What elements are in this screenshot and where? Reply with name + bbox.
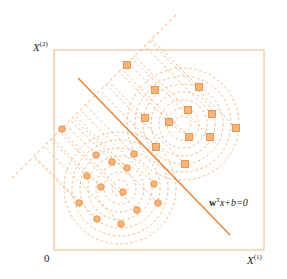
projection-line [152, 39, 199, 87]
circle-point [94, 216, 101, 223]
square-point [153, 144, 160, 151]
contour-ring [104, 172, 136, 204]
square-point [142, 115, 149, 122]
projection-line [135, 56, 188, 110]
circle-point [151, 181, 158, 188]
decision-boundary-line [78, 78, 230, 235]
circle-point [59, 126, 66, 133]
projection-line [73, 117, 158, 203]
square-point [182, 161, 189, 168]
circle-point [131, 151, 138, 158]
square-point [185, 107, 192, 114]
projection-line [51, 140, 87, 176]
projection-line [44, 146, 121, 224]
circle-point [134, 207, 141, 214]
circle-point [118, 221, 125, 228]
circle-point [98, 184, 105, 191]
square-point [186, 134, 193, 141]
x-axis-label-text: X [247, 254, 254, 266]
circle-point [84, 173, 91, 180]
square-point [209, 111, 216, 118]
circle-point [124, 165, 131, 172]
projection-line [66, 125, 96, 155]
y-axis-label: X(2) [33, 40, 48, 53]
contour-ring [135, 76, 231, 172]
square-point [124, 62, 131, 69]
circle-point [120, 189, 127, 196]
y-axis-label-text: X [33, 41, 40, 53]
contour-ring [143, 84, 223, 164]
x-axis-label-sup: (1) [254, 253, 262, 261]
square-point [196, 84, 203, 91]
square-point [207, 134, 214, 141]
projection-line [34, 156, 97, 219]
origin-label-text: 0 [44, 252, 50, 264]
circle-point [93, 152, 100, 159]
contour-ring [175, 116, 191, 132]
circle-point [109, 159, 116, 166]
y-axis-label-sup: (2) [40, 40, 48, 48]
projection-line [85, 105, 134, 154]
projection-line [122, 69, 189, 137]
circle-point [76, 200, 83, 207]
square-point [166, 119, 173, 126]
square-point [152, 87, 159, 94]
decision-boundary-equation: wTx+b=0 [209, 197, 248, 208]
contour-ring [80, 148, 160, 228]
origin-label: 0 [44, 252, 50, 264]
projection-line [33, 157, 79, 203]
x-axis-label: X(1) [247, 253, 262, 266]
circle-point [155, 200, 162, 207]
contour-ring [151, 92, 215, 156]
projection-line [75, 116, 127, 168]
projection-line [70, 120, 112, 162]
square-point [233, 125, 240, 132]
projection-line [106, 85, 185, 164]
equation-rest: x+b=0 [220, 197, 248, 208]
